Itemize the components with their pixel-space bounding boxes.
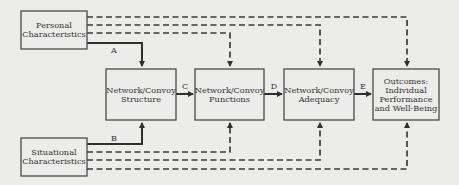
node-structure-line-2: Structure	[121, 94, 161, 104]
node-outcomes-line-4: and Well-Being	[375, 103, 438, 113]
edge-situational-outcomes	[87, 123, 407, 169]
edge-label-b: B	[111, 134, 117, 143]
edge-personal-adequacy	[87, 25, 320, 66]
node-outcomes: Outcomes: Individual Performance and Wel…	[373, 69, 439, 120]
node-network-adequacy: Network/Convoy Adequacy	[284, 69, 354, 120]
node-adequacy-line-2: Adequacy	[298, 94, 340, 104]
node-situational-line-2: Characteristics	[22, 156, 85, 166]
node-personal-characteristics: Personal Characteristics	[21, 11, 87, 49]
node-personal-line-2: Characteristics	[22, 29, 85, 39]
node-network-structure: Network/Convoy Structure	[106, 69, 176, 120]
node-network-functions: Network/Convoy Functions	[195, 69, 265, 120]
edge-label-e: E	[360, 82, 366, 91]
convoy-model-diagram: A B C D E Personal Characteristics Situa…	[0, 0, 459, 185]
node-situational-characteristics: Situational Characteristics	[21, 138, 87, 176]
edge-label-d: D	[271, 82, 277, 91]
edge-situational-functions	[87, 123, 230, 152]
edge-personal-functions	[87, 33, 230, 66]
edge-situational-adequacy	[87, 123, 320, 160]
node-functions-line-2: Functions	[209, 94, 250, 104]
edge-label-a: A	[110, 46, 117, 55]
edge-label-c: C	[182, 82, 188, 91]
